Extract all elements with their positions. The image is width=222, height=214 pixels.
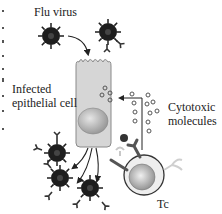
infected-cell-label-line1: Infected	[12, 83, 51, 96]
t-cell-receptor-icon	[128, 140, 140, 157]
infected-epithelial-cell	[76, 60, 112, 148]
infected-cell-label-line2: epithelial cell	[12, 97, 77, 110]
cytotoxic-arrow	[120, 98, 142, 150]
antigen-bead-icon	[120, 134, 128, 142]
infection-arrow	[68, 36, 88, 54]
perforin-icon	[111, 160, 127, 170]
released-virus-2	[44, 160, 73, 200]
released-virus-3	[73, 175, 110, 210]
mhc-receptor-icon	[116, 148, 124, 157]
tc-label: Tc	[157, 198, 169, 211]
cytotoxic-label-line2: molecules	[168, 115, 217, 128]
epithelial-nucleus	[78, 108, 108, 134]
cytotoxic-label-line1: Cytotoxic	[168, 101, 215, 114]
virus-release-arrows	[73, 148, 98, 182]
tc-nucleus	[129, 164, 155, 190]
tc-cell	[111, 134, 182, 195]
released-virus-1	[33, 132, 70, 166]
co-receptor-icon	[164, 160, 182, 170]
flu-virus-icon-antibody-bound	[95, 19, 125, 52]
flu-virus-label: Flu virus	[34, 6, 77, 19]
flu-virus-icon-free	[38, 23, 64, 49]
